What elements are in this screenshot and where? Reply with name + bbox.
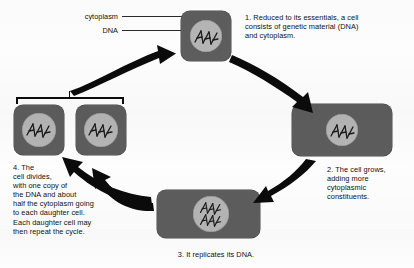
arrow-cell3-to-daughter-left [62,157,152,205]
diagram-canvas: cytoplasm DNA 1. Reduced to its essentia… [0,0,414,268]
flow-arrows [0,0,414,268]
arrow-cell1-to-cell2 [229,55,313,113]
arrow-cell2-to-cell3 [253,159,316,203]
arrow-daughters-to-cell1 [70,45,176,96]
